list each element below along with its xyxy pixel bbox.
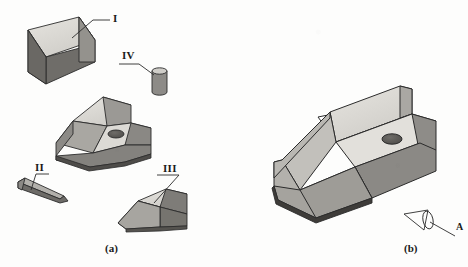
caption-b: (b) xyxy=(404,243,417,254)
assembly-hole xyxy=(382,134,402,144)
part-label-i: I xyxy=(113,13,118,24)
part-ii-solid xyxy=(18,178,68,203)
part-label-iv: IV xyxy=(122,50,135,61)
part-label-ii: II xyxy=(35,162,44,173)
view-arrow-label-a: A xyxy=(456,222,463,232)
base-part-solid xyxy=(56,97,151,171)
part-label-iii: III xyxy=(163,163,177,174)
view-direction-arrow-a xyxy=(404,210,455,236)
part-iv-solid xyxy=(152,68,167,95)
assembly-solid xyxy=(272,86,436,223)
technical-drawing-svg xyxy=(0,0,468,267)
caption-a: (a) xyxy=(105,243,118,254)
base-part-hole xyxy=(108,130,124,138)
figure-canvas: I IV II III (a) (b) A xyxy=(0,0,468,267)
part-iii-solid xyxy=(118,189,187,232)
leader-line-iv xyxy=(119,64,154,75)
